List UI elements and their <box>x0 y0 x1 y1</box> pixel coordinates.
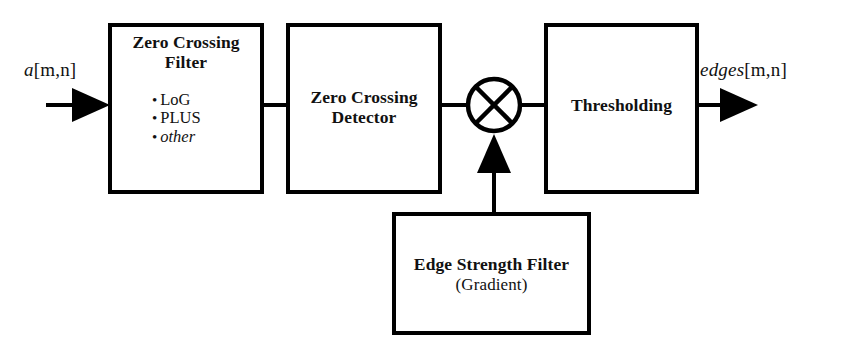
block-zero-crossing-detector-title: Zero Crossing Detector <box>288 88 440 127</box>
block-diagram-figure: a[m,n] edges[m,n] Zero Crossing Filter •… <box>0 0 845 351</box>
input-arrow <box>46 88 110 122</box>
bullet-label-other: other <box>160 127 195 146</box>
block-edge-strength-filter-title-line1: Edge Strength Filter <box>394 255 589 275</box>
multiplier-node <box>468 79 520 131</box>
output-signal-indices: [m,n] <box>744 59 787 80</box>
input-signal-indices: [m,n] <box>34 59 77 80</box>
block-zero-crossing-filter-title-line2: Filter <box>110 53 262 73</box>
bullet-label-plus: PLUS <box>160 108 200 127</box>
bullet-item-plus: •PLUS <box>152 109 201 127</box>
output-signal-var: edges <box>700 59 744 80</box>
bullet-item-other: •other <box>152 128 201 146</box>
input-signal-var: a <box>24 59 34 80</box>
block-edge-strength-filter-title: Edge Strength Filter (Gradient) <box>394 255 589 294</box>
output-signal-label: edges[m,n] <box>700 59 787 80</box>
output-arrow <box>699 88 758 122</box>
connector-edge-strength-to-multiplier <box>477 134 511 214</box>
block-zero-crossing-filter-bullets: •LoG •PLUS •other <box>152 91 201 146</box>
block-zero-crossing-detector-title-line2: Detector <box>288 108 440 128</box>
block-thresholding-title: Thresholding <box>546 96 697 116</box>
block-zero-crossing-detector-title-line1: Zero Crossing <box>288 88 440 108</box>
bullet-item-log: •LoG <box>152 91 201 109</box>
block-zero-crossing-filter-title-line1: Zero Crossing <box>110 33 262 53</box>
bullet-label-log: LoG <box>160 90 190 109</box>
block-zero-crossing-filter-title: Zero Crossing Filter <box>110 33 262 72</box>
input-signal-label: a[m,n] <box>24 59 76 80</box>
block-edge-strength-filter-subtitle: (Gradient) <box>394 275 589 294</box>
block-thresholding-title-line1: Thresholding <box>546 96 697 116</box>
